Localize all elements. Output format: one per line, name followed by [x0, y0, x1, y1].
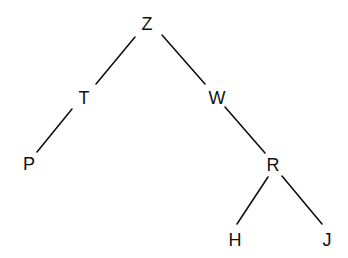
nodes: Z T W P R H J [23, 14, 332, 250]
edge-w-r [225, 107, 265, 153]
node-w: W [209, 88, 226, 108]
edge-t-p [37, 109, 72, 152]
edges [37, 35, 322, 224]
edge-z-w [162, 35, 205, 84]
node-j: J [323, 230, 332, 250]
node-z: Z [142, 14, 153, 34]
node-h: H [229, 230, 242, 250]
node-r: R [267, 155, 280, 175]
edge-z-t [96, 37, 135, 84]
node-p: P [23, 154, 35, 174]
edge-r-j [282, 176, 322, 224]
binary-tree-diagram: Z T W P R H J [0, 0, 348, 258]
edge-r-h [237, 177, 268, 224]
node-t: T [79, 88, 90, 108]
